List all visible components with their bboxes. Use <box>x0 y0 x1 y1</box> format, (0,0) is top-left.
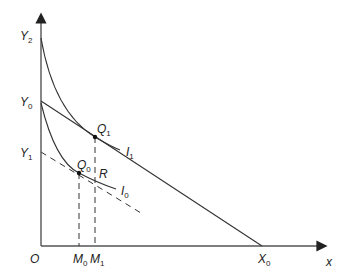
label-y1: Y1 <box>20 147 32 162</box>
label-i1: I1 <box>126 146 134 161</box>
label-i0: I0 <box>121 185 129 200</box>
label-y0: Y0 <box>20 96 32 111</box>
dashed-budget-line <box>41 152 141 213</box>
diagram-canvas <box>0 0 347 277</box>
label-y2: Y2 <box>20 30 32 45</box>
budget-line <box>41 101 262 246</box>
label-m0: M0 <box>73 253 87 268</box>
label-x-axis: x <box>326 256 332 268</box>
label-q1: Q1 <box>97 123 111 138</box>
label-m1: M1 <box>90 253 104 268</box>
label-x0: X0 <box>258 253 270 268</box>
indifference-curve-diagram: Y2 Y0 Y1 Q1 Q0 R I1 I0 O M0 M1 X0 x <box>0 0 347 277</box>
label-r: R <box>99 168 108 180</box>
label-origin: O <box>30 253 39 265</box>
label-q0: Q0 <box>77 159 91 174</box>
